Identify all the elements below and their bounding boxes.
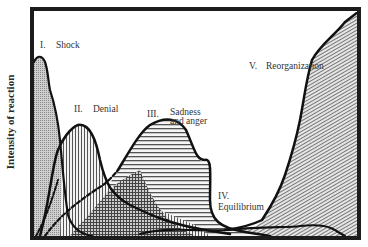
stage-ii-label: Denial xyxy=(93,104,119,114)
stage-i-label: Shock xyxy=(56,40,80,50)
stage-iv-label: Equilibrium xyxy=(218,202,265,212)
stage-iii-numeral: III. xyxy=(147,109,159,119)
stage-ii-numeral: II. xyxy=(74,104,83,114)
stage-v-label: Reorganization xyxy=(266,61,324,71)
diagram-canvas: I. Shock II. Denial III. Sadness and ang… xyxy=(0,0,368,247)
stage-iv-numeral: IV. xyxy=(218,191,229,201)
stage-v-numeral: V. xyxy=(249,61,257,71)
stage-i-numeral: I. xyxy=(40,40,46,50)
grief-stages-diagram: Intensity of reaction xyxy=(0,0,368,247)
y-axis-label: Intensity of reaction xyxy=(4,57,16,187)
stage-v-reorganization-area xyxy=(248,12,358,237)
stage-iii-label-line2: and anger xyxy=(170,116,208,126)
